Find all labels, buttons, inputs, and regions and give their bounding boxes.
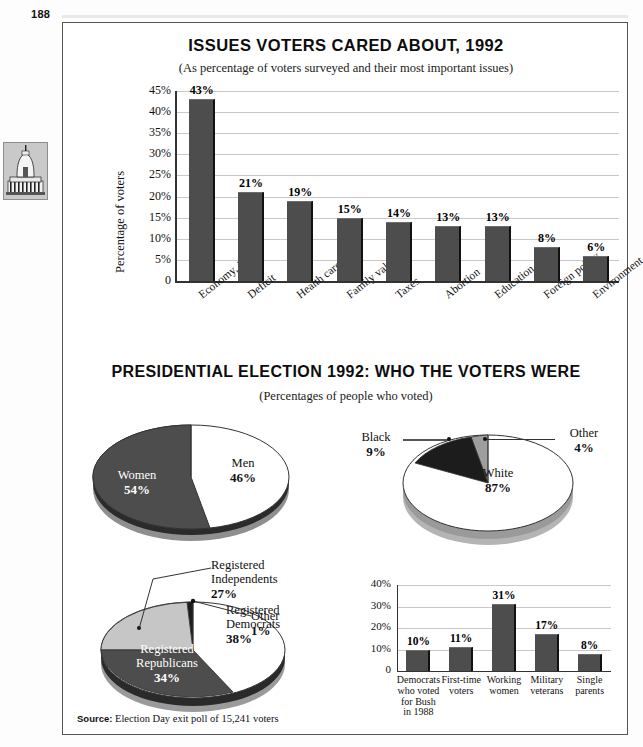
other-race-leader-dot — [483, 437, 487, 441]
bar-5 — [435, 226, 461, 281]
bar-1 — [238, 192, 264, 281]
source-label: Source: — [77, 713, 112, 724]
g2-bar-4 — [578, 654, 602, 671]
bar-4 — [386, 222, 412, 281]
pie-value-reg-dem: 38% — [226, 631, 252, 646]
g2-category-line-2-1: women — [480, 686, 528, 697]
g2-gridline-40% — [397, 585, 611, 586]
bar-0 — [189, 99, 215, 281]
black-leader-line — [403, 439, 449, 441]
figure2-subtitle: (Percentages of people who voted) — [63, 389, 629, 404]
pie-label-reg-other: Other — [251, 609, 279, 623]
g2-category-label-0: Democratswho votedfor Bushin 1988 — [394, 675, 442, 718]
pie-value-white: 87% — [485, 480, 511, 495]
bar-7 — [534, 247, 560, 281]
g2-bar-1 — [449, 647, 473, 671]
y-axis-title: Percentage of voters — [113, 171, 128, 273]
g2-category-line-0-3: in 1988 — [394, 707, 442, 718]
black-leader-dot — [447, 437, 451, 441]
source-note: Source: Election Day exit poll of 15,241… — [77, 713, 279, 724]
pie-value-reg-ind: 27% — [211, 586, 237, 601]
page-number: 188 — [31, 8, 50, 20]
g2-category-label-4: Singleparents — [566, 675, 614, 697]
pie-value-reg-other: 1% — [251, 623, 271, 638]
other-reg-callout: Other 1% — [251, 610, 341, 639]
figure-frame: ISSUES VOTERS CARED ABOUT, 1992 (As perc… — [62, 22, 628, 735]
pie-label-black: Black — [361, 430, 390, 444]
y-tick-35%: 35% — [129, 125, 171, 140]
g2-x-axis — [397, 671, 611, 672]
bar-value-3: 15% — [323, 202, 377, 217]
bar-3 — [337, 218, 363, 281]
g2-y-tick-0: 0 — [353, 663, 391, 675]
header-rule — [62, 15, 628, 18]
pie-label-white: White — [483, 466, 514, 480]
g2-bar-0 — [406, 650, 430, 672]
y-tick-10%: 10% — [129, 231, 171, 246]
pie-value-black: 9% — [366, 444, 386, 459]
g2-category-line-4-1: parents — [566, 686, 614, 697]
pie-label-reg-ind-2: Independents — [211, 572, 278, 586]
bar-value-7: 8% — [520, 231, 574, 246]
g2-bar-value-3: 17% — [522, 619, 572, 631]
bar-value-4: 14% — [372, 206, 426, 221]
capitol-building-icon — [3, 142, 48, 200]
y-tick-25%: 25% — [129, 167, 171, 182]
g2-bar-value-2: 31% — [479, 589, 529, 601]
bar-6 — [485, 226, 511, 281]
bar-value-1: 21% — [224, 176, 278, 191]
y-tick-5%: 5% — [129, 252, 171, 267]
source-text: Election Day exit poll of 15,241 voters — [115, 713, 279, 724]
pie-label-men: Men — [232, 456, 255, 470]
g2-y-tick-10%: 10% — [353, 642, 391, 654]
y-tick-15%: 15% — [129, 210, 171, 225]
pie-label-reg-ind-1: Registered — [211, 558, 264, 572]
gridline-35% — [175, 133, 619, 134]
g2-y-tick-20%: 20% — [353, 620, 391, 632]
y-tick-30%: 30% — [129, 146, 171, 161]
independents-leader-dot — [137, 626, 141, 630]
pie-label-reg-rep-2: Republicans — [136, 656, 198, 670]
y-tick-20%: 20% — [129, 189, 171, 204]
pie-value-women: 54% — [124, 482, 150, 497]
pie-label-reg-rep-1: Registered — [140, 642, 193, 656]
g2-y-axis — [397, 585, 398, 672]
groups-bar-chart: 010%20%30%40%10%Democratswho votedfor Bu… — [353, 571, 621, 721]
pie-label-other-race: Other — [570, 426, 598, 440]
gridline-45% — [175, 91, 619, 92]
gridline-30% — [175, 154, 619, 155]
g2-bar-value-1: 11% — [436, 632, 486, 644]
bar-value-8: 6% — [569, 240, 623, 255]
gender-pie: Men 46% Women 54% — [79, 411, 309, 551]
pie-label-women: Women — [118, 468, 157, 482]
bar-2 — [287, 201, 313, 281]
g2-bar-2 — [492, 604, 516, 671]
pie-value-reg-rep: 34% — [154, 670, 180, 685]
bar-value-2: 19% — [273, 185, 327, 200]
g2-category-label-3: Militaryveterans — [523, 675, 571, 697]
bar-value-5: 13% — [421, 210, 475, 225]
figure2-title: PRESIDENTIAL ELECTION 1992: WHO THE VOTE… — [63, 363, 629, 381]
g2-category-line-1-1: voters — [437, 686, 485, 697]
independents-callout: Registered Independents 27% — [211, 559, 341, 601]
pie-value-other-race: 4% — [574, 440, 594, 455]
other-race-leader-line — [485, 439, 555, 440]
g2-y-tick-30%: 30% — [353, 599, 391, 611]
g2-category-line-0-1: who voted — [394, 686, 442, 697]
y-tick-0: 0 — [129, 273, 171, 288]
issues-bar-chart: 05%10%15%20%25%30%35%40%45%Percentage of… — [63, 23, 629, 343]
race-pie: White 87% Black 9% Other 4% — [343, 411, 613, 561]
y-tick-40%: 40% — [129, 104, 171, 119]
bar-value-0: 43% — [175, 83, 229, 98]
g2-category-label-1: First-timevoters — [437, 675, 485, 697]
bar-value-6: 13% — [471, 210, 525, 225]
g2-bar-3 — [535, 634, 559, 671]
g2-category-label-2: Workingwomen — [480, 675, 528, 697]
g2-bar-value-4: 8% — [565, 639, 615, 651]
pie-value-men: 46% — [230, 470, 256, 485]
y-tick-45%: 45% — [129, 83, 171, 98]
g2-category-line-3-1: veterans — [523, 686, 571, 697]
g2-y-tick-40%: 40% — [353, 577, 391, 589]
y-axis — [175, 91, 177, 282]
gridline-40% — [175, 112, 619, 113]
